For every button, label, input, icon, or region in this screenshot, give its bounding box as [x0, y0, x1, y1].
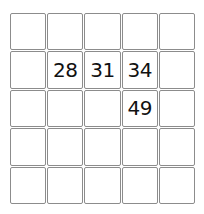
cell-value: 49: [127, 98, 151, 118]
grid-cell-r3c2[interactable]: [47, 90, 83, 127]
grid-cell-r2c5[interactable]: [159, 51, 195, 88]
grid-cell-r2c2[interactable]: 28: [47, 51, 83, 88]
number-grid: 28 31 34 49: [10, 13, 195, 204]
grid-cell-r4c3[interactable]: [84, 128, 120, 165]
grid-cell-r4c4[interactable]: [122, 128, 158, 165]
grid-cell-r1c2[interactable]: [47, 13, 83, 50]
grid-cell-r1c5[interactable]: [159, 13, 195, 50]
grid-cell-r1c4[interactable]: [122, 13, 158, 50]
grid-cell-r5c1[interactable]: [10, 167, 46, 204]
grid-cell-r5c4[interactable]: [122, 167, 158, 204]
grid-cell-r3c4[interactable]: 49: [122, 90, 158, 127]
grid-cell-r4c2[interactable]: [47, 128, 83, 165]
grid-cell-r3c3[interactable]: [84, 90, 120, 127]
cell-value: 34: [127, 60, 151, 80]
grid-cell-r1c3[interactable]: [84, 13, 120, 50]
cell-value: 31: [90, 60, 114, 80]
cell-value: 28: [53, 60, 77, 80]
grid-cell-r5c3[interactable]: [84, 167, 120, 204]
grid-cell-r3c1[interactable]: [10, 90, 46, 127]
grid-cell-r5c2[interactable]: [47, 167, 83, 204]
grid-cell-r4c5[interactable]: [159, 128, 195, 165]
grid-cell-r1c1[interactable]: [10, 13, 46, 50]
grid-cell-r5c5[interactable]: [159, 167, 195, 204]
grid-cell-r3c5[interactable]: [159, 90, 195, 127]
grid-cell-r2c1[interactable]: [10, 51, 46, 88]
grid-cell-r4c1[interactable]: [10, 128, 46, 165]
grid-cell-r2c4[interactable]: 34: [122, 51, 158, 88]
grid-cell-r2c3[interactable]: 31: [84, 51, 120, 88]
